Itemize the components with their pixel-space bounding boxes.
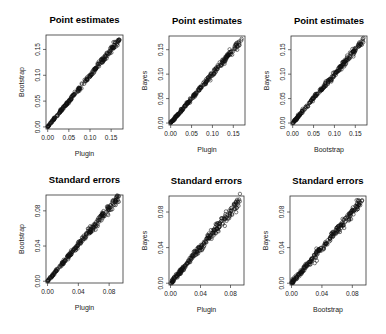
y-tick-label: 0.08	[278, 205, 285, 218]
scatter-panel-2: Point estimates0.000.050.100.150.000.050…	[141, 15, 245, 154]
y-tick-label: 0.04	[278, 241, 285, 254]
y-tick-label: 0.08	[34, 204, 41, 217]
y-tick-label: 0.15	[157, 43, 164, 56]
y-axis-label: Bayes	[262, 230, 270, 250]
x-tick-label: 0.05	[63, 134, 76, 141]
x-tick-label: 0.05	[185, 130, 198, 137]
panel-title: Point estimates	[172, 15, 242, 26]
panel-title: Standard errors	[171, 175, 242, 186]
x-tick-label: 0.00	[164, 130, 177, 137]
panel-title: Point estimates	[294, 15, 364, 26]
x-tick-label: 0.10	[206, 130, 219, 137]
x-tick-label: 0.00	[41, 288, 54, 295]
x-axis-label: Bootstrap	[313, 306, 343, 314]
scatter-panel-4: Standard errors0.000.040.080.000.040.08P…	[18, 174, 123, 312]
data-points	[290, 198, 364, 284]
x-tick-label: 0.08	[346, 290, 359, 297]
y-tick-label: 0.00	[34, 120, 41, 133]
y-tick-label: 0.00	[157, 277, 164, 290]
x-tick-label: 0.04	[72, 288, 85, 295]
y-axis-label: Bayes	[141, 70, 149, 90]
data-points	[46, 194, 121, 283]
y-tick-label: 0.05	[34, 94, 41, 107]
y-tick-label: 0.10	[34, 69, 41, 82]
x-axis-label: Plugin	[197, 306, 217, 314]
scatter-panel-3: Point estimates0.000.050.100.150.000.050…	[263, 15, 367, 154]
y-tick-label: 0.00	[34, 275, 41, 288]
y-tick-label: 0.00	[279, 116, 286, 129]
data-points	[46, 38, 121, 129]
y-tick-label: 0.08	[157, 205, 164, 218]
y-tick-label: 0.04	[34, 239, 41, 252]
x-axis-label: Plugin	[75, 150, 95, 158]
y-tick-label: 0.00	[278, 277, 285, 290]
x-tick-label: 0.15	[105, 134, 118, 141]
x-tick-label: 0.08	[103, 288, 116, 295]
y-axis-label: Bootstrap	[18, 224, 26, 254]
x-tick-label: 0.00	[164, 290, 177, 297]
panel-title: Standard errors	[292, 175, 363, 186]
scatter-panel-5: Standard errors0.000.040.080.000.040.08P…	[141, 175, 244, 314]
scatter-panel-6: Standard errors0.000.040.080.000.040.08B…	[262, 175, 366, 314]
x-axis-label: Plugin	[197, 146, 217, 154]
x-tick-label: 0.15	[349, 130, 362, 137]
x-axis-label: Bootstrap	[314, 146, 344, 154]
x-tick-label: 0.15	[227, 130, 240, 137]
y-tick-label: 0.00	[157, 116, 164, 129]
y-tick-label: 0.10	[157, 67, 164, 80]
x-tick-label: 0.10	[328, 130, 341, 137]
panel-title: Point estimates	[49, 14, 119, 25]
x-tick-label: 0.00	[285, 290, 298, 297]
data-points	[169, 192, 242, 285]
x-axis-label: Plugin	[75, 304, 95, 312]
scatter-matrix-figure: Point estimates0.000.050.100.150.000.050…	[0, 0, 386, 334]
data-points	[169, 37, 243, 125]
y-tick-label: 0.10	[279, 67, 286, 80]
y-tick-label: 0.04	[157, 241, 164, 254]
scatter-panel-1: Point estimates0.000.050.100.150.000.050…	[18, 14, 123, 158]
x-tick-label: 0.04	[316, 290, 329, 297]
x-tick-label: 0.00	[41, 134, 54, 141]
y-tick-label: 0.15	[279, 43, 286, 56]
x-tick-label: 0.08	[224, 290, 237, 297]
y-axis-label: Bootstrap	[18, 67, 26, 97]
y-tick-label: 0.05	[279, 92, 286, 105]
x-tick-label: 0.10	[84, 134, 97, 141]
x-tick-label: 0.04	[194, 290, 207, 297]
data-points	[291, 36, 365, 124]
y-axis-label: Bayes	[263, 70, 271, 90]
x-tick-label: 0.00	[286, 130, 299, 137]
panel-title: Standard errors	[49, 174, 120, 185]
y-tick-label: 0.15	[34, 43, 41, 56]
y-axis-label: Bayes	[141, 230, 149, 250]
y-tick-label: 0.05	[157, 92, 164, 105]
x-tick-label: 0.05	[307, 130, 320, 137]
